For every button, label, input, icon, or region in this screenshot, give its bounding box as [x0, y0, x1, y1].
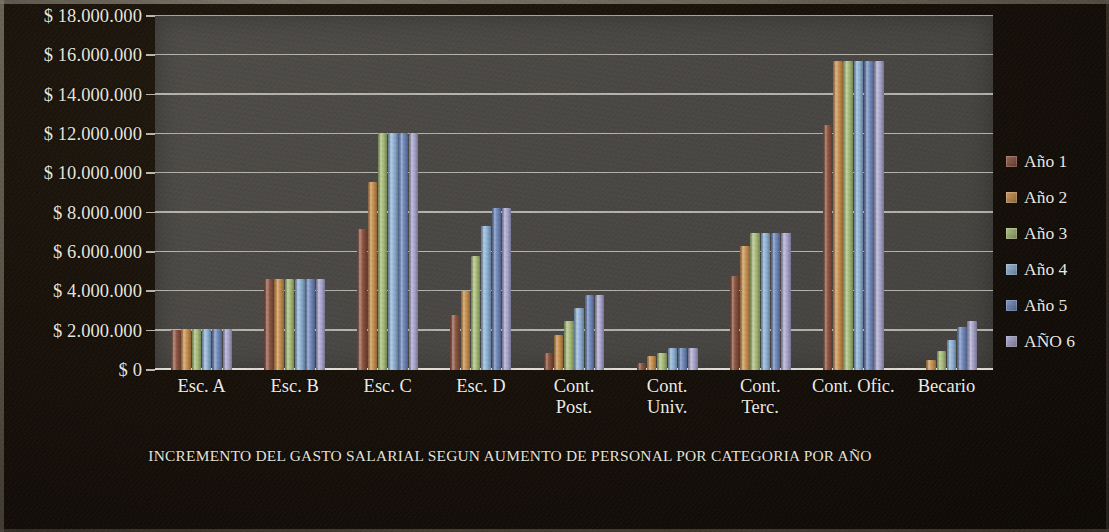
x-axis-category-label: Cont. Univ.	[621, 376, 714, 418]
bar	[544, 353, 554, 370]
bar	[316, 279, 326, 370]
chart-title: INCREMENTO DEL GASTO SALARIAL SEGUN AUME…	[0, 447, 1020, 465]
y-axis-tick-label: $ 16.000.000	[44, 45, 142, 66]
y-axis-tick-label: $ 2.000.000	[53, 320, 142, 341]
x-axis-category-label: Cont. Post.	[527, 376, 620, 418]
bar	[864, 61, 874, 370]
legend-item[interactable]: Año 4	[1006, 251, 1106, 287]
y-axis-tick-label: $ 10.000.000	[44, 163, 142, 184]
bar-group	[621, 16, 714, 370]
bar	[192, 329, 202, 370]
y-axis-tick	[146, 133, 155, 135]
bar	[171, 330, 181, 370]
bar	[471, 256, 481, 370]
bar-group	[714, 16, 807, 370]
y-axis-tick	[146, 94, 155, 96]
legend-label: Año 3	[1024, 223, 1067, 244]
legend-item[interactable]: Año 5	[1006, 287, 1106, 323]
bar	[564, 321, 574, 370]
bar	[305, 279, 315, 370]
bar-group	[527, 16, 620, 370]
legend-item[interactable]: Año 3	[1006, 215, 1106, 251]
bar	[264, 279, 274, 370]
bar	[967, 321, 977, 370]
bar	[657, 353, 667, 370]
y-axis-tick	[146, 369, 155, 371]
legend-swatch-icon	[1006, 192, 1017, 203]
bar	[668, 348, 678, 370]
bar	[368, 182, 378, 370]
y-axis-tick-label: $ 0	[119, 360, 142, 381]
y-axis-tick	[146, 212, 155, 214]
bar	[378, 133, 388, 370]
legend-item[interactable]: Año 2	[1006, 179, 1106, 215]
scan-border-left	[0, 0, 4, 532]
x-axis-category-label: Esc. A	[155, 376, 248, 397]
y-axis-tick	[146, 330, 155, 332]
bar	[212, 329, 222, 370]
y-axis-labels: $ 18.000.000$ 16.000.000$ 14.000.000$ 12…	[4, 16, 148, 370]
legend-swatch-icon	[1006, 264, 1017, 275]
x-axis-labels: Esc. AEsc. BEsc. CEsc. DCont. Post.Cont.…	[155, 376, 993, 436]
legend-label: AÑO 6	[1024, 331, 1075, 352]
legend-swatch-icon	[1006, 156, 1017, 167]
bar	[181, 329, 191, 370]
scan-border-top	[0, 0, 1109, 4]
y-axis-tick-label: $ 6.000.000	[53, 242, 142, 263]
legend-item[interactable]: AÑO 6	[1006, 323, 1106, 359]
bar-group	[248, 16, 341, 370]
y-axis-tick	[146, 251, 155, 253]
x-axis-category-label: Becario	[900, 376, 993, 397]
bar	[357, 229, 367, 370]
y-axis-tick-label: $ 8.000.000	[53, 202, 142, 223]
bar	[874, 61, 884, 370]
bar	[450, 315, 460, 370]
bar	[202, 329, 212, 370]
bar	[409, 133, 419, 370]
chart-screenshot: $ 18.000.000$ 16.000.000$ 14.000.000$ 12…	[0, 0, 1109, 532]
bar	[223, 329, 233, 370]
x-axis-category-label: Cont. Ofic.	[807, 376, 900, 397]
bar	[947, 340, 957, 370]
bar-group	[900, 16, 993, 370]
bar-group	[807, 16, 900, 370]
bar	[750, 233, 760, 370]
legend-label: Año 4	[1024, 259, 1067, 280]
bar	[285, 279, 295, 370]
bar-series-container	[155, 16, 993, 370]
y-axis-tick	[146, 54, 155, 56]
bar	[595, 295, 605, 370]
bar	[295, 279, 305, 370]
bar	[823, 125, 833, 370]
bar	[730, 276, 740, 370]
bar	[554, 335, 564, 370]
bar	[678, 348, 688, 370]
bar	[481, 226, 491, 370]
bar-group	[155, 16, 248, 370]
bar	[461, 291, 471, 370]
legend-swatch-icon	[1006, 336, 1017, 347]
bar	[937, 351, 947, 370]
bar	[761, 233, 771, 370]
legend-label: Año 2	[1024, 187, 1067, 208]
y-axis-tick-label: $ 14.000.000	[44, 84, 142, 105]
bar	[771, 233, 781, 370]
legend-swatch-icon	[1006, 228, 1017, 239]
legend-label: Año 5	[1024, 295, 1067, 316]
y-axis-tick-label: $ 12.000.000	[44, 124, 142, 145]
bar	[647, 356, 657, 370]
y-axis-tick	[146, 290, 155, 292]
bar	[502, 208, 512, 370]
chart-legend: Año 1Año 2Año 3Año 4Año 5AÑO 6	[1006, 143, 1106, 359]
legend-item[interactable]: Año 1	[1006, 143, 1106, 179]
bar	[854, 61, 864, 370]
legend-swatch-icon	[1006, 300, 1017, 311]
bar	[274, 279, 284, 370]
bar	[740, 246, 750, 370]
x-axis-category-label: Esc. B	[248, 376, 341, 397]
bar	[585, 295, 595, 370]
bar	[781, 233, 791, 370]
y-axis-tick	[146, 172, 155, 174]
bar	[492, 208, 502, 370]
y-axis-tick-label: $ 4.000.000	[53, 281, 142, 302]
